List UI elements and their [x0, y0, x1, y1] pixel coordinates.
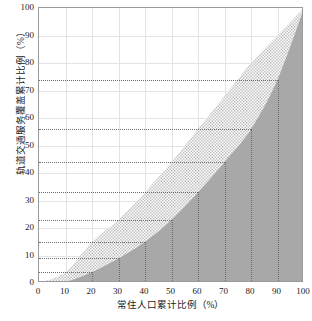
x-tick-label: 50 — [159, 287, 183, 296]
reference-line-horizontal — [39, 242, 145, 243]
y-tick-label: 10 — [6, 251, 34, 260]
y-tick-label: 100 — [6, 3, 34, 12]
x-tick-label: 30 — [106, 287, 130, 296]
x-axis-ticks: 0102030405060708090100 — [38, 287, 303, 299]
reference-line-vertical — [251, 129, 252, 282]
x-tick-label: 100 — [291, 287, 312, 296]
x-tick-label: 10 — [53, 287, 77, 296]
reference-line-horizontal — [39, 192, 198, 193]
reference-line-horizontal — [39, 258, 119, 259]
x-tick-label: 0 — [26, 287, 50, 296]
reference-line-vertical — [119, 258, 120, 282]
reference-lines-layer — [39, 8, 302, 281]
y-tick-label: 0 — [6, 278, 34, 287]
x-tick-label: 90 — [265, 287, 289, 296]
x-tick-label: 60 — [185, 287, 209, 296]
reference-line-vertical — [225, 162, 226, 282]
y-axis-label: 轨道交通服务覆盖累计比例（%） — [16, 26, 26, 176]
reference-line-vertical — [145, 242, 146, 282]
reference-line-horizontal — [39, 272, 92, 273]
x-tick-label: 70 — [212, 287, 236, 296]
reference-line-vertical — [92, 272, 93, 282]
x-axis-label: 常住人口累计比例（%） — [38, 300, 303, 310]
chart-container: 0102030405060708090100 轨道交通服务覆盖累计比例（%） 0… — [0, 0, 312, 321]
reference-line-horizontal — [39, 129, 251, 130]
plot-area — [38, 7, 303, 282]
reference-line-horizontal — [39, 162, 225, 163]
x-tick-label: 20 — [79, 287, 103, 296]
reference-line-horizontal — [39, 220, 172, 221]
reference-line-horizontal — [39, 80, 278, 81]
x-tick-label: 40 — [132, 287, 156, 296]
y-tick-label: 30 — [6, 196, 34, 205]
reference-line-vertical — [172, 220, 173, 282]
y-tick-label: 20 — [6, 223, 34, 232]
reference-line-vertical — [198, 192, 199, 282]
reference-line-vertical — [278, 80, 279, 283]
x-tick-label: 80 — [238, 287, 262, 296]
